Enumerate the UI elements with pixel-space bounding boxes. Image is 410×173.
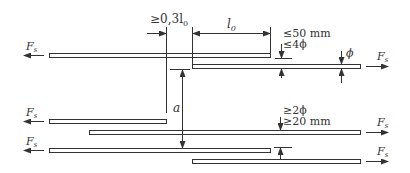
offset-label: ≥0,3l0 (150, 12, 188, 28)
bar-3 (50, 120, 167, 124)
bar-2 (193, 65, 361, 69)
bar-4 (90, 131, 361, 135)
clear-gap-label-2: ≤4ϕ (283, 38, 307, 51)
force-label-right-3: Fs (376, 145, 389, 159)
lap-splice-diagram: ≥0,3l0 l0 ≤50 mm ≤4ϕ ϕ a ≥2ϕ ≥20 mm Fs F… (0, 0, 410, 173)
force-label-left-2: Fs (25, 106, 38, 120)
spacing-label: a (173, 101, 180, 115)
force-label-left-1: Fs (25, 40, 38, 54)
min-spacing-label-2: ≥20 mm (283, 115, 331, 128)
bar-5 (50, 149, 271, 153)
lap-length-label: l0 (227, 17, 236, 33)
force-label-left-3: Fs (25, 135, 38, 149)
bar-1 (50, 54, 271, 58)
diameter-label: ϕ (346, 47, 354, 60)
force-label-right-1: Fs (376, 50, 389, 64)
force-label-right-2: Fs (376, 116, 389, 130)
bar-6 (193, 160, 361, 164)
